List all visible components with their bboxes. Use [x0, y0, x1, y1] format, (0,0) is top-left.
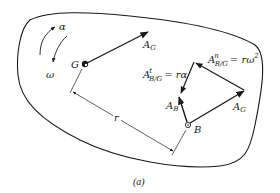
g-center-of-mass-icon — [82, 61, 88, 67]
alpha-label: α — [59, 21, 66, 32]
a-b-label: AB — [165, 100, 178, 113]
omega-label: ω — [46, 69, 54, 80]
a-g-label-top: AG — [142, 39, 156, 52]
a-g-vector-at-g — [87, 32, 148, 63]
a-b-vector — [179, 97, 187, 122]
g-extension-line — [70, 69, 82, 93]
a-normal-label: AnB/G= rω2 — [207, 52, 259, 68]
omega-arrow-icon — [53, 36, 67, 62]
b-extension-line — [172, 130, 186, 155]
r-dimension-line — [73, 92, 173, 151]
kinematics-diagram: α ω G AG r B AB AG AnB/G= rω2 AtB/G= rα … — [0, 0, 280, 193]
figure-caption: (a) — [133, 176, 145, 188]
b-label: B — [193, 124, 201, 135]
alpha-arrow-icon — [40, 27, 55, 55]
g-label: G — [71, 59, 79, 70]
a-tangential-label: AtB/G= rα — [142, 67, 188, 83]
a-g-label-at-b: AG — [232, 101, 246, 114]
